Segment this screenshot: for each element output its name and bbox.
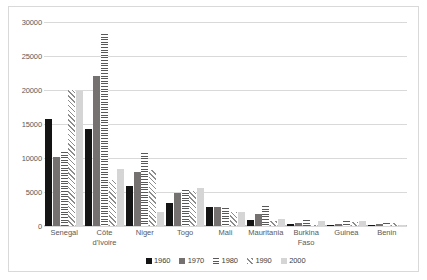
bar bbox=[295, 223, 302, 226]
bar bbox=[222, 208, 229, 226]
bar bbox=[189, 191, 196, 226]
plot-area bbox=[44, 22, 407, 226]
legend-swatch-icon bbox=[146, 258, 152, 264]
bar bbox=[327, 225, 334, 226]
legend-label: 1990 bbox=[255, 256, 271, 265]
bar bbox=[351, 222, 358, 226]
x-axis-tick-label: Niger bbox=[125, 228, 165, 247]
gridline bbox=[44, 226, 407, 227]
bar bbox=[343, 221, 350, 226]
y-axis-tick-label: 30000 bbox=[22, 18, 42, 27]
bar bbox=[287, 224, 294, 226]
bar bbox=[278, 219, 285, 226]
bar bbox=[318, 221, 325, 226]
bar bbox=[174, 193, 181, 226]
legend-label: 2000 bbox=[289, 256, 305, 265]
bar bbox=[93, 76, 100, 226]
x-axis-tick-label: Benin bbox=[367, 228, 407, 247]
bar bbox=[230, 212, 237, 226]
bar bbox=[109, 180, 116, 226]
legend-item[interactable]: 1990 bbox=[247, 256, 272, 265]
bar bbox=[182, 190, 189, 226]
x-axis-category-labels: SenegalCôte d'IvoireNigerTogoMaliMaurita… bbox=[44, 228, 407, 247]
bar bbox=[45, 119, 52, 226]
bar-groups bbox=[44, 22, 407, 226]
bar bbox=[238, 212, 245, 226]
bar bbox=[359, 221, 366, 226]
y-axis-tick-label: 20000 bbox=[22, 86, 42, 95]
bar bbox=[255, 214, 262, 226]
y-axis-tick-label: 5000 bbox=[26, 188, 42, 197]
legend-label: 1970 bbox=[188, 256, 204, 265]
y-axis-tick-label: 15000 bbox=[22, 120, 42, 129]
bar-group bbox=[326, 22, 366, 226]
bar-group bbox=[165, 22, 205, 226]
bar bbox=[166, 203, 173, 226]
x-axis-tick-label: Côte d'Ivoire bbox=[84, 228, 124, 247]
bar-group bbox=[84, 22, 124, 226]
legend-label: 1960 bbox=[154, 256, 170, 265]
chart-legend: 19601970198019902000 bbox=[44, 256, 407, 265]
bar bbox=[134, 172, 141, 226]
y-axis-tick-label: 25000 bbox=[22, 52, 42, 61]
bar bbox=[399, 225, 406, 226]
bar-group bbox=[286, 22, 326, 226]
legend-swatch-icon bbox=[179, 258, 185, 264]
bar bbox=[61, 152, 68, 226]
bar bbox=[149, 170, 156, 226]
bar bbox=[262, 206, 269, 226]
bar bbox=[76, 91, 83, 226]
x-axis-tick-label: Guinea bbox=[326, 228, 366, 247]
bar bbox=[117, 169, 124, 226]
legend-item[interactable]: 1970 bbox=[179, 256, 204, 265]
chart-container: 050001000015000200002500030000 SenegalCô… bbox=[0, 0, 427, 280]
bar bbox=[53, 157, 60, 226]
bar bbox=[391, 223, 398, 226]
bar bbox=[376, 224, 383, 226]
bar-group bbox=[246, 22, 286, 226]
legend-item[interactable]: 1960 bbox=[146, 256, 171, 265]
bar bbox=[247, 220, 254, 226]
legend-item[interactable]: 1980 bbox=[213, 256, 238, 265]
bar bbox=[310, 225, 317, 226]
bar bbox=[197, 188, 204, 226]
x-axis-tick-label: Togo bbox=[165, 228, 205, 247]
bar bbox=[303, 220, 310, 226]
bar bbox=[126, 186, 133, 226]
bar-group bbox=[205, 22, 245, 226]
y-axis-tick-labels: 050001000015000200002500030000 bbox=[8, 22, 42, 226]
legend-item[interactable]: 2000 bbox=[281, 256, 306, 265]
bar bbox=[85, 129, 92, 226]
bar bbox=[157, 212, 164, 226]
legend-swatch-icon bbox=[213, 258, 219, 264]
y-axis-tick-label: 10000 bbox=[22, 154, 42, 163]
bar bbox=[383, 223, 390, 226]
x-axis-tick-label: Mauritania bbox=[246, 228, 286, 247]
legend-swatch-icon bbox=[281, 258, 287, 264]
bar bbox=[141, 153, 148, 226]
x-axis-tick-label: Burkina Faso bbox=[286, 228, 326, 247]
bar bbox=[101, 34, 108, 226]
bar bbox=[270, 221, 277, 226]
legend-swatch-icon bbox=[247, 258, 253, 264]
bar-group bbox=[44, 22, 84, 226]
bar-group bbox=[125, 22, 165, 226]
bar-group bbox=[367, 22, 407, 226]
y-axis-tick-label: 0 bbox=[38, 222, 42, 231]
bar bbox=[68, 90, 75, 226]
bar bbox=[368, 225, 375, 226]
bar bbox=[206, 207, 213, 226]
bar bbox=[335, 224, 342, 226]
legend-label: 1980 bbox=[222, 256, 238, 265]
bar bbox=[214, 207, 221, 226]
x-axis-tick-label: Senegal bbox=[44, 228, 84, 247]
x-axis-tick-label: Mali bbox=[205, 228, 245, 247]
